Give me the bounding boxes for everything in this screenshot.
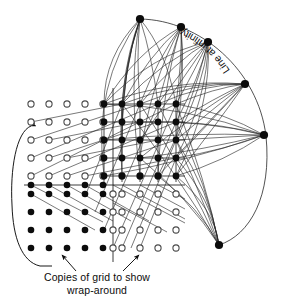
- point-at-infinity-p3: [241, 80, 249, 88]
- wrap-around-caption: Copies of grid to show wrap-around: [22, 271, 172, 296]
- infinity-connection-curves: [102, 19, 264, 245]
- caption-arrows: [62, 255, 139, 271]
- grid-dots-top-left-copy: [28, 101, 106, 179]
- diagram-canvas: Line at infinity: [0, 0, 282, 303]
- caption-line-2: wrap-around: [22, 284, 172, 297]
- point-at-infinity-p4: [260, 131, 268, 139]
- line-at-infinity-label: Line at infinity: [177, 26, 231, 76]
- point-at-infinity-p5: [215, 241, 223, 249]
- point-at-infinity-p0: [136, 15, 144, 23]
- arrow-left: [62, 255, 76, 271]
- arrow-right: [123, 255, 139, 271]
- caption-line-1: Copies of grid to show: [22, 271, 172, 284]
- grid-dots-bottom-left-copy: [28, 182, 107, 252]
- figure-container: Line at infinity Copies of grid to show …: [0, 0, 282, 303]
